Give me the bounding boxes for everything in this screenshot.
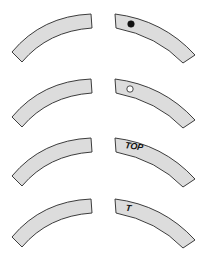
left-arc-segment [12, 79, 92, 127]
left-arc-segment [12, 138, 92, 186]
left-arc-segment [12, 14, 92, 62]
row-1 [12, 14, 195, 63]
right-arc-segment [115, 14, 195, 63]
filled-dot-marking [128, 21, 135, 28]
right-arc-segment [115, 79, 195, 128]
row-4: T [12, 199, 195, 248]
left-arc-segment [12, 199, 92, 247]
row-2 [12, 79, 195, 128]
hollow-dot-marking [127, 86, 133, 92]
row-3: TOP [12, 138, 195, 187]
arc-marking-diagram: TOP T [0, 0, 205, 262]
